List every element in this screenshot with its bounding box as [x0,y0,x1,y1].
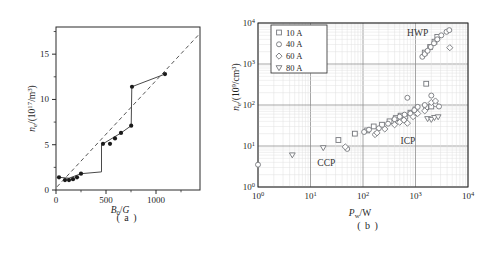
figure-canvas: 05001000051015B0/Gne/(1017/m3)1001011021… [0,0,496,257]
triangle-down-marker [289,153,295,158]
plot-a-frame [56,27,200,190]
circle-marker [277,42,282,47]
y-tick-label: 15 [40,49,50,59]
data-point [163,72,167,76]
x-tick-label: 104 [462,190,475,201]
x-tick-label: 102 [357,190,369,201]
plots-svg: 05001000051015B0/Gne/(1017/m3)1001011021… [0,0,496,257]
plot-a: 05001000051015B0/Gne/(1017/m3) [26,27,200,216]
y-tick-label: 0 [45,185,50,195]
plot-b: 100101102103104100101102103104HWPICPCCP1… [230,17,475,220]
circle-marker [415,104,420,109]
data-point [63,178,67,182]
y-axis-label-b: ne/(109/cm3) [230,63,243,110]
caption-a: ( a ) [97,212,157,223]
data-point [108,142,112,146]
circle-marker [422,103,427,108]
square-marker [352,131,357,136]
series-60-A [342,45,453,150]
square-marker [336,138,341,143]
x-tick-label: 101 [304,190,316,201]
circle-marker [447,28,452,33]
y-tick-label: 103 [243,58,255,69]
reference-dashed-line [57,33,200,186]
circle-marker [392,117,397,122]
x-tick-label: 500 [99,195,113,205]
x-tick-label: 0 [54,195,59,205]
region-label-ccp: CCP [317,158,335,168]
data-line [59,74,165,178]
data-point [79,172,83,176]
square-marker [371,124,376,129]
legend-label: 40 A [286,39,303,49]
circle-marker [386,121,391,126]
y-tick-label: 10 [40,94,50,104]
data-point [67,178,71,182]
data-point [101,142,105,146]
data-point [71,177,75,181]
circle-marker [405,95,410,100]
y-tick-label: 102 [243,99,255,110]
square-marker [277,30,282,35]
circle-marker [362,129,367,134]
legend-label: 10 A [286,28,303,38]
x-axis-label-b: Pw/W [348,208,371,219]
y-tick-label: 5 [45,140,50,150]
square-marker [424,81,429,86]
data-point [130,85,134,89]
region-label-hwp: HWP [407,28,428,38]
circle-marker [402,112,407,117]
circle-marker [256,162,261,167]
x-tick-label: 103 [409,190,421,201]
data-point [119,131,123,135]
x-tick-label: 100 [252,190,264,201]
circle-marker [366,127,371,132]
caption-b: ( b ) [338,220,398,231]
circle-marker [439,33,444,38]
legend-label: 60 A [286,51,303,61]
region-label-icp: ICP [401,136,416,146]
legend: 10 A40 A60 A80 A [271,25,327,73]
circle-marker [435,37,440,42]
circle-marker [397,114,402,119]
y-axis-label-a: ne/(1017/m3) [26,85,39,132]
data-point [129,124,133,128]
circle-marker [429,93,434,98]
legend-label: 80 A [286,63,303,73]
y-tick-label: 104 [243,17,256,28]
y-tick-label: 101 [243,140,255,151]
circle-marker [436,104,441,109]
data-point [113,136,117,140]
x-tick-label: 1000 [147,195,166,205]
data-point [75,175,79,179]
data-point [57,175,61,179]
